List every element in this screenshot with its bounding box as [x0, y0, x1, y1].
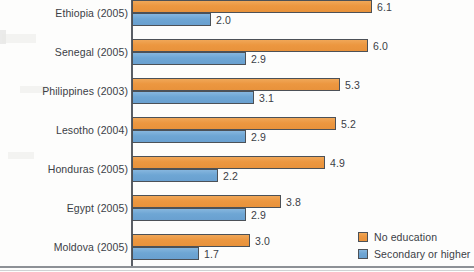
- bar-group: Honduras (2005)4.92.2: [0, 156, 474, 182]
- bar-value-secondary-or-higher: 2.9: [251, 53, 266, 65]
- legend-label: Secondary or higher: [374, 248, 470, 260]
- category-label: Honduras (2005): [0, 163, 128, 175]
- bottom-rule: [0, 266, 474, 268]
- legend-item: No education: [358, 228, 470, 245]
- bottom-rule-secondary: [0, 270, 474, 271]
- bar-value-no-education: 3.0: [255, 235, 270, 247]
- chart-container: Ethiopia (2005)6.12.0Senegal (2005)6.02.…: [0, 0, 474, 272]
- bar-secondary-or-higher: [132, 91, 254, 104]
- bar-no-education: [132, 78, 340, 91]
- bar-group: Egypt (2005)3.82.9: [0, 195, 474, 221]
- bar-value-secondary-or-higher: 2.9: [251, 131, 266, 143]
- bar-no-education: [132, 117, 336, 130]
- bar-value-no-education: 6.0: [373, 40, 388, 52]
- bar-secondary-or-higher: [132, 208, 246, 221]
- orange-swatch: [358, 232, 368, 242]
- bar-no-education: [132, 0, 372, 13]
- chart-legend: No educationSecondary or higher: [358, 228, 470, 262]
- bar-no-education: [132, 39, 368, 52]
- bar-no-education: [132, 156, 325, 169]
- bar-value-no-education: 6.1: [377, 1, 392, 13]
- category-label: Moldova (2005): [0, 241, 128, 253]
- category-label: Senegal (2005): [0, 46, 128, 58]
- bar-group: Philippines (2003)5.33.1: [0, 78, 474, 104]
- bar-value-secondary-or-higher: 1.7: [204, 248, 219, 260]
- bar-value-no-education: 4.9: [330, 157, 345, 169]
- bar-group: Ethiopia (2005)6.12.0: [0, 0, 474, 26]
- legend-item: Secondary or higher: [358, 245, 470, 262]
- bar-value-no-education: 5.3: [345, 79, 360, 91]
- bar-no-education: [132, 195, 281, 208]
- bar-secondary-or-higher: [132, 52, 246, 65]
- bar-value-secondary-or-higher: 2.0: [216, 14, 231, 26]
- bar-no-education: [132, 234, 250, 247]
- bar-value-secondary-or-higher: 3.1: [259, 92, 274, 104]
- bar-value-secondary-or-higher: 2.9: [251, 209, 266, 221]
- bar-secondary-or-higher: [132, 13, 211, 26]
- blue-swatch: [358, 249, 368, 259]
- bar-secondary-or-higher: [132, 169, 218, 182]
- bar-secondary-or-higher: [132, 130, 246, 143]
- category-label: Egypt (2005): [0, 202, 128, 214]
- bar-group: Lesotho (2004)5.22.9: [0, 117, 474, 143]
- bar-value-no-education: 5.2: [341, 118, 356, 130]
- category-label: Lesotho (2004): [0, 124, 128, 136]
- category-label: Philippines (2003): [0, 85, 128, 97]
- bar-secondary-or-higher: [132, 247, 199, 260]
- bar-group: Senegal (2005)6.02.9: [0, 39, 474, 65]
- bar-value-secondary-or-higher: 2.2: [223, 170, 238, 182]
- legend-label: No education: [374, 231, 437, 243]
- bar-value-no-education: 3.8: [286, 196, 301, 208]
- category-label: Ethiopia (2005): [0, 7, 128, 19]
